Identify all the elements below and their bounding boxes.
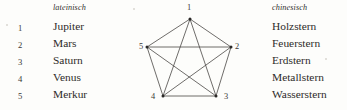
vertex-label-5: 5 — [139, 43, 143, 51]
graph-edge-2-4 — [163, 47, 231, 96]
latin-name-1: Jupiter — [53, 21, 84, 32]
latin-name-2: Mars — [53, 38, 76, 49]
latin-name-5: Merkur — [53, 89, 87, 100]
vertex-label-4: 4 — [151, 93, 155, 101]
chinese-name-1: Holzstern — [272, 21, 316, 32]
row-index-4: 4 — [18, 74, 22, 85]
graph-edge-1-3 — [190, 19, 216, 96]
row-index-1: 1 — [18, 23, 22, 34]
graph-edge-5-1 — [147, 19, 190, 47]
chinese-name-3: Erdstern — [272, 55, 311, 66]
chinese-name-4: Metallstern — [272, 72, 324, 83]
chinese-name-5: Wasserstern — [272, 89, 327, 100]
chinese-column-header: chinesisch — [272, 3, 307, 12]
row-index-2: 2 — [18, 40, 22, 51]
graph-vertex-3 — [215, 95, 218, 98]
figure-container: 1 2 3 4 5 lateinisch Jupiter Mars Saturn… — [0, 0, 347, 110]
vertex-label-2: 2 — [235, 43, 239, 51]
row-index-3: 3 — [18, 57, 22, 68]
pentagram-diagram: 1 2 3 4 5 — [136, 0, 246, 110]
index-column: 1 2 3 4 5 — [18, 0, 36, 110]
row-index-5: 5 — [18, 91, 22, 102]
graph-edge-3-5 — [147, 47, 216, 96]
chinese-column: chinesisch Holzstern Feuerstern Erdstern… — [272, 0, 347, 110]
graph-vertex-4 — [162, 95, 165, 98]
graph-edge-1-4 — [163, 19, 190, 96]
graph-vertex-1 — [189, 18, 192, 21]
latin-name-3: Saturn — [53, 55, 83, 66]
chinese-name-2: Feuerstern — [272, 38, 320, 49]
graph-edges — [147, 19, 231, 96]
graph-edge-2-3 — [216, 47, 231, 96]
graph-edge-1-2 — [190, 19, 231, 47]
graph-vertex-5 — [146, 46, 149, 49]
latin-name-4: Venus — [53, 72, 81, 83]
vertex-label-3: 3 — [224, 93, 228, 101]
vertex-label-1: 1 — [187, 4, 191, 12]
graph-vertex-2 — [230, 46, 233, 49]
latin-column: lateinisch Jupiter Mars Saturn Venus Mer… — [53, 0, 138, 110]
scan-speck — [6, 24, 8, 26]
graph-edge-4-5 — [147, 47, 163, 96]
latin-column-header: lateinisch — [53, 3, 86, 12]
